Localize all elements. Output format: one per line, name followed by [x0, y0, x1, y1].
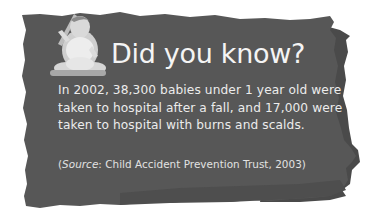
- baby-photo-icon: [44, 10, 110, 78]
- source-text: : Child Accident Prevention Trust, 2003): [98, 158, 306, 170]
- source-label: Source: [62, 158, 98, 170]
- card-body: In 2002, 38,300 babies under 1 year old …: [58, 82, 348, 135]
- card-title: Did you know?: [111, 38, 305, 70]
- statistic-text: In 2002, 38,300 babies under 1 year old …: [58, 82, 348, 135]
- source-citation: (Source: Child Accident Prevention Trust…: [58, 158, 306, 170]
